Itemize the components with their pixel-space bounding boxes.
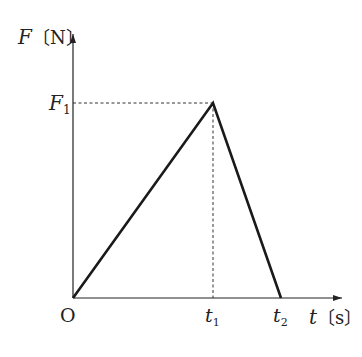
x-axis-label: t〔s〕 [309, 305, 362, 329]
graph-canvas: F〔N〕 F1 O t1 t2 t〔s〕 [0, 0, 362, 357]
force-time-graph: F〔N〕 F1 O t1 t2 t〔s〕 [0, 0, 362, 357]
y-axis-label: F〔N〕 [17, 25, 84, 49]
origin-label: O [60, 304, 76, 326]
force-curve [73, 103, 281, 298]
t1-label: t1 [205, 304, 220, 329]
f1-label: F1 [48, 91, 71, 117]
t2-label: t2 [273, 304, 288, 329]
